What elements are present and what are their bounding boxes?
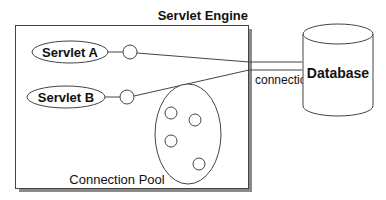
servlet-engine-title: Servlet Engine [158, 8, 248, 23]
servlet-a-label: Servlet A [42, 45, 98, 60]
connection-port-icon [120, 90, 134, 104]
pooled-connection-icon [193, 158, 205, 170]
connection-pool-label: Connection Pool [69, 172, 165, 187]
pooled-connection-icon [165, 135, 177, 147]
connection-port-icon [123, 45, 137, 59]
database-label: Database [307, 65, 369, 81]
servlet-b-label: Servlet B [38, 90, 94, 105]
pooled-connection-icon [165, 107, 177, 119]
database-node: Database [303, 24, 373, 116]
servlet-connection-pool-diagram: Servlet Engine Servlet A Servlet B conne… [0, 0, 386, 200]
connection-pool [155, 84, 221, 184]
pooled-connection-icon [189, 114, 201, 126]
